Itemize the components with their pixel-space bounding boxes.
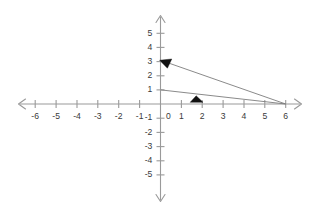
x-tick-labels: -6 -5 -4 -3 -2 -1 0 1 2 3 4 5 6 bbox=[31, 111, 288, 121]
y-tick-label: -2 bbox=[145, 127, 153, 137]
x-tick-label: -1 bbox=[136, 111, 144, 121]
y-axis bbox=[156, 16, 165, 202]
coordinate-graph: -6 -5 -4 -3 -2 -1 0 1 2 3 4 5 6 5 4 3 2 … bbox=[0, 0, 319, 213]
x-tick-label: 5 bbox=[262, 111, 267, 121]
vector-to-0-3-line bbox=[165, 62, 286, 104]
y-tick-labels: 5 4 3 2 1 -1 -2 -3 -4 -5 bbox=[145, 28, 153, 180]
x-tick-label: -5 bbox=[52, 111, 60, 121]
x-tick-label: -3 bbox=[94, 111, 102, 121]
y-tick-label: 5 bbox=[148, 28, 153, 38]
y-tick-label: 3 bbox=[148, 56, 153, 66]
y-tick-label: 1 bbox=[148, 84, 153, 94]
y-tick-label: -4 bbox=[145, 155, 153, 165]
y-tick-label: 2 bbox=[148, 70, 153, 80]
y-tick-label: -3 bbox=[145, 141, 153, 151]
y-tick-label: -5 bbox=[145, 169, 153, 179]
x-tick-label: -2 bbox=[115, 111, 123, 121]
x-tick-label-origin: 0 bbox=[166, 111, 171, 121]
x-tick-label: -6 bbox=[31, 111, 39, 121]
x-tick-label: 3 bbox=[221, 111, 226, 121]
vector-to-x-axis-arrowhead-icon bbox=[190, 96, 203, 103]
y-tick-label: 4 bbox=[148, 42, 153, 52]
x-tick-label: 2 bbox=[200, 111, 205, 121]
x-tick-label: 6 bbox=[283, 111, 288, 121]
y-tick-label: -1 bbox=[145, 112, 153, 122]
coordinate-plane-figure: -6 -5 -4 -3 -2 -1 0 1 2 3 4 5 6 5 4 3 2 … bbox=[0, 0, 319, 213]
x-tick-label: 4 bbox=[242, 111, 247, 121]
x-tick-label: -4 bbox=[73, 111, 81, 121]
x-tick-label: 1 bbox=[179, 111, 184, 121]
